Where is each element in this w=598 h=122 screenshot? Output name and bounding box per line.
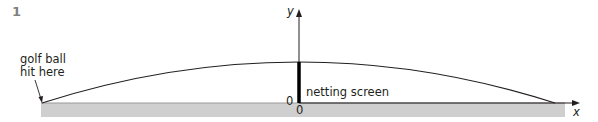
y-axis-arrow-icon (296, 9, 302, 17)
pointer-arrow-line (35, 80, 41, 99)
origin-label-left: 0 (286, 95, 293, 108)
start-label-line2: hit here (20, 66, 65, 79)
netting-screen-label: netting screen (306, 86, 389, 99)
x-axis-label: x (573, 106, 580, 119)
origin-label-below: 0 (296, 104, 303, 117)
y-axis-label: y (287, 5, 294, 18)
pointer-arrow-icon (39, 96, 44, 103)
